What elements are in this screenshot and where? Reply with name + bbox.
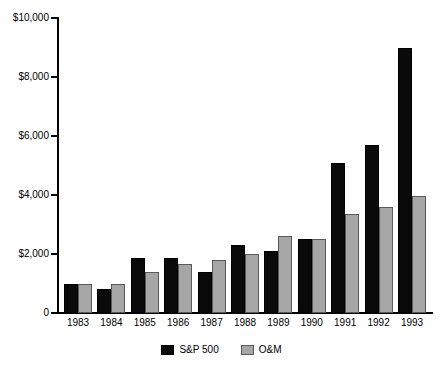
bar-om	[245, 254, 259, 313]
x-axis-tick-label: 1992	[362, 317, 396, 329]
bar-group	[198, 18, 226, 313]
bar-group	[331, 18, 359, 313]
y-axis-tick-label-text: 0	[1, 308, 49, 318]
bar-group	[131, 18, 159, 313]
gray-square-swatch	[241, 345, 254, 355]
bar-group	[64, 18, 92, 313]
bar-sp500	[164, 258, 178, 313]
y-axis-tick-label: $4,000	[0, 190, 49, 200]
y-axis-tick-label-text: $8,000	[1, 72, 49, 82]
bar-group	[398, 18, 426, 313]
bar-sp500	[398, 48, 412, 314]
legend-item-label: O&M	[259, 344, 282, 355]
bar-group	[231, 18, 259, 313]
bar-group	[365, 18, 393, 313]
y-axis-tick-label: $8,000	[0, 72, 49, 82]
bar-sp500	[131, 258, 145, 313]
bar-chart: 0$2,000$4,000$6,000$8,000$10,000 1983198…	[0, 0, 443, 367]
chart-legend: S&P 500O&M	[0, 344, 443, 355]
bar-om	[412, 196, 426, 313]
x-axis-tick-label: 1989	[261, 317, 295, 329]
x-axis-tick-label: 1993	[395, 317, 429, 329]
y-axis-tick-label: $2,000	[0, 249, 49, 259]
bar-group	[298, 18, 326, 313]
y-axis-tick-label-text: $10,000	[1, 13, 49, 23]
plot-area	[59, 18, 432, 313]
bar-group	[97, 18, 125, 313]
bar-om	[345, 214, 359, 313]
y-axis-tick-label-text: $6,000	[1, 131, 49, 141]
black-square-swatch	[161, 345, 174, 355]
bar-sp500	[97, 289, 111, 313]
y-axis-tick-label: $6,000	[0, 131, 49, 141]
bar-om	[212, 260, 226, 313]
y-axis-tick-label-text: $4,000	[1, 190, 49, 200]
bar-group	[164, 18, 192, 313]
x-axis-tick-label: 1991	[328, 317, 362, 329]
x-axis-tick-label: 1990	[295, 317, 329, 329]
legend-item-label: S&P 500	[179, 344, 218, 355]
bar-sp500	[264, 251, 278, 313]
legend-item: O&M	[241, 344, 282, 355]
x-axis-tick-label: 1983	[61, 317, 95, 329]
bar-group	[264, 18, 292, 313]
legend-item: S&P 500	[161, 344, 218, 355]
y-axis-tick-label: 0	[0, 308, 49, 318]
bar-om	[312, 239, 326, 313]
y-axis-tick-label-text: $2,000	[1, 249, 49, 259]
bar-sp500	[298, 239, 312, 313]
bar-om	[178, 264, 192, 313]
bar-sp500	[365, 145, 379, 313]
bar-om	[278, 236, 292, 313]
bar-sp500	[331, 163, 345, 313]
bar-sp500	[231, 245, 245, 313]
x-axis-tick-label: 1986	[161, 317, 195, 329]
y-axis-tick-label: $10,000	[0, 13, 49, 23]
x-axis-tick-label: 1984	[94, 317, 128, 329]
bar-om	[78, 284, 92, 314]
bar-om	[145, 272, 159, 313]
bar-om	[111, 284, 125, 314]
bar-sp500	[198, 272, 212, 313]
x-axis-tick-label: 1988	[228, 317, 262, 329]
bar-sp500	[64, 284, 78, 314]
bar-om	[379, 207, 393, 313]
x-axis-tick-label: 1987	[195, 317, 229, 329]
x-axis-tick-label: 1985	[128, 317, 162, 329]
